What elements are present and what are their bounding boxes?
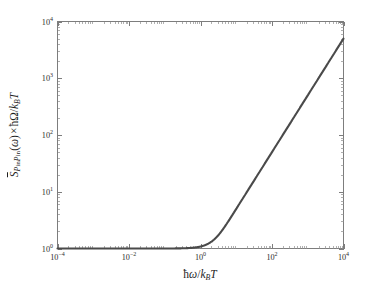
y-omega-symbol: ω [8,139,20,147]
y-slash-symbol: / [8,109,20,112]
x-tick-label-3: 102 [266,253,277,262]
y-axis-title: SPinPin(ω)×ħΩ/kBT [8,93,20,178]
plot-frame-rect [58,22,344,249]
y-tick-label-3: 103 [32,74,53,83]
y-t-symbol: T [8,93,20,99]
y-paren-open: ( [8,147,20,151]
x-t-symbol: T [210,268,216,280]
y-tick-label-4: 104 [32,17,53,26]
x-tick-label-4: 104 [338,253,349,262]
x-tick-label-1: 10−2 [122,253,137,262]
y-p-subscript-2: P [13,156,22,161]
y-k-symbol: k [8,104,20,109]
axes-frame [58,22,344,249]
x-axis-major-ticks [59,22,345,249]
y-tick-label-2: 102 [32,131,53,140]
plot-svg [0,0,369,295]
x-tick-label-0: 10−4 [50,253,65,262]
y-capital-omega-symbol: Ω [8,112,20,121]
y-in-subscript-2: in [14,151,22,157]
y-paren-close: ) [8,135,20,139]
y-in-subscript-1: in [14,161,22,167]
y-tick-label-1: 101 [32,187,53,196]
y-axis-minor-ticks [58,25,344,232]
x-axis-minor-ticks [69,22,343,249]
y-axis-major-ticks [58,23,344,250]
figure-canvas: 10−410−2100102104 100101102103104 ħω/kBT… [0,0,369,295]
x-omega-symbol: ω [189,268,197,280]
y-tick-label-0: 100 [32,244,53,253]
x-tick-label-2: 100 [195,253,206,262]
data-curve-s-pinpin [58,39,344,249]
y-b-subscript: B [13,99,22,104]
y-times-symbol: × [8,127,20,136]
y-s-symbol: S [8,172,20,178]
x-axis-title: ħω/kBT [183,268,216,280]
y-hbar-symbol: ħ [8,121,20,127]
